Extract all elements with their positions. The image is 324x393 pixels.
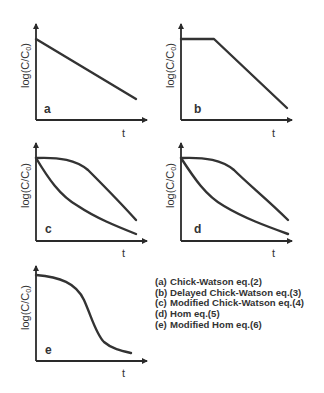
curve-delayed-chick-watson bbox=[181, 39, 287, 108]
panel-c: log(C/C0) c t bbox=[19, 143, 147, 259]
panel-label: b bbox=[194, 102, 201, 116]
legend: (a)Chick-Watson eq.(2) (b)Delayed Chick-… bbox=[155, 277, 304, 331]
kinetic-models-figure: log(C/C0) a t log(C/C0) b t log(C/C0) c … bbox=[0, 0, 324, 393]
panel-e: log(C/C0) e t bbox=[19, 266, 147, 379]
legend-label: Modified Hom eq.(6) bbox=[170, 320, 262, 331]
legend-item: (e)Modified Hom eq.(6) bbox=[155, 320, 304, 331]
y-axis-label: log(C/C0) bbox=[19, 285, 32, 330]
curve-chick-watson bbox=[36, 39, 136, 99]
x-axis-label: t bbox=[122, 247, 125, 259]
x-axis-label: t bbox=[122, 127, 125, 139]
curve-modified-hom bbox=[36, 275, 131, 353]
y-axis-label: log(C/C0) bbox=[164, 163, 177, 208]
panel-d: log(C/C0) d t bbox=[164, 143, 292, 259]
x-axis-label: t bbox=[122, 367, 125, 379]
panel-label: d bbox=[194, 222, 201, 236]
panel-b: log(C/C0) b t bbox=[164, 24, 292, 139]
x-axis-label: t bbox=[272, 247, 275, 259]
y-axis-label: log(C/C0) bbox=[164, 43, 177, 88]
panel-label: a bbox=[44, 102, 51, 116]
panel-label: c bbox=[45, 222, 52, 236]
legend-key: (e) bbox=[155, 320, 170, 331]
y-axis-label: log(C/C0) bbox=[19, 163, 32, 208]
x-axis-label: t bbox=[272, 127, 275, 139]
y-axis-label: log(C/C0) bbox=[19, 43, 32, 88]
panel-label: e bbox=[45, 343, 52, 357]
panel-a: log(C/C0) a t bbox=[19, 24, 147, 139]
